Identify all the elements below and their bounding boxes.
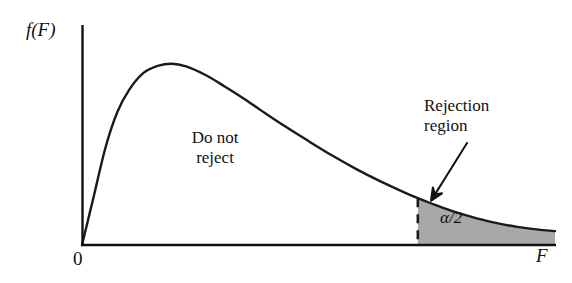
rejection-region-label: Rejection region — [424, 96, 489, 135]
rejection-region-arrow-shaft — [431, 142, 467, 200]
plot-canvas — [0, 0, 572, 283]
rejection-region-arrow-head — [431, 188, 442, 201]
f-distribution-figure: f(F) 0 F Do not reject Rejection region … — [0, 0, 572, 283]
x-axis-label: F — [536, 245, 548, 267]
alpha-over-two-label: α/2 — [440, 208, 462, 228]
density-curve — [82, 64, 555, 245]
y-axis-label: f(F) — [26, 19, 56, 41]
origin-label: 0 — [73, 248, 83, 270]
do-not-reject-label: Do not reject — [163, 128, 267, 167]
